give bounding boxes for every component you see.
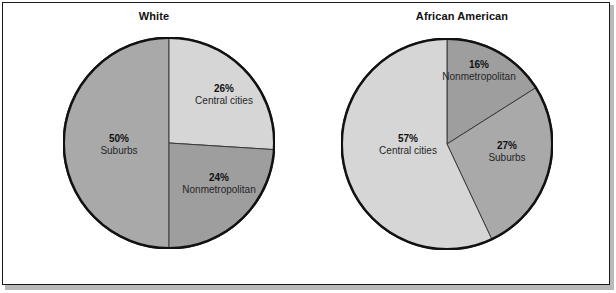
panel-title-white: White (0, 10, 308, 22)
pie-slice-white-suburbs[interactable] (63, 37, 169, 249)
pie-panel-white: White 26% Central cities 24% Nonmetropol… (0, 0, 308, 293)
pie-svg-white (63, 37, 275, 249)
panel-title-african-american: African American (308, 10, 616, 22)
figure-canvas: White 26% Central cities 24% Nonmetropol… (0, 0, 616, 293)
pie-svg-african-american (341, 38, 553, 250)
pie-chart-african-american (341, 38, 553, 250)
pie-panel-african-american: African American 16% Nonmetropolitan 27%… (308, 0, 616, 293)
pie-chart-white (63, 37, 275, 249)
pie-slice-white-central-cities[interactable] (169, 37, 275, 150)
